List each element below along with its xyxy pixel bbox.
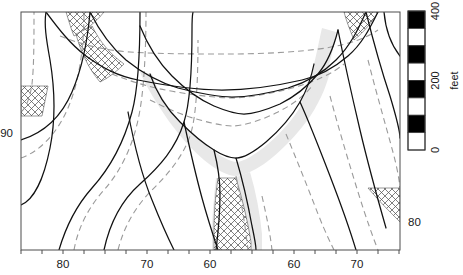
scale-bar-segment-0 <box>408 11 425 28</box>
x-tick-label-70-16: 70 <box>351 258 364 270</box>
scale-bar-segments <box>408 11 425 150</box>
x-tick-label-60-13: 60 <box>288 258 301 270</box>
y-left-label-90: 90 <box>0 127 13 139</box>
x-tick-label-80-2: 80 <box>57 258 70 270</box>
scale-bar: 4002000 feet <box>408 2 460 153</box>
scale-bar-segment-6 <box>408 115 425 132</box>
scale-bar-tick-labels: 4002000 <box>429 2 441 153</box>
y-right-label-80: 80 <box>408 216 421 228</box>
scale-bar-segment-3 <box>408 63 425 80</box>
y-axis-left-labels: 90 <box>0 127 13 139</box>
scale-bar-segment-1 <box>408 28 425 45</box>
x-tick-label-60-9: 60 <box>204 258 217 270</box>
x-axis-ticks <box>21 250 399 254</box>
figure-canvas: 8070606070 90 80 4002000 feet <box>0 0 463 275</box>
contour-map-svg: 8070606070 90 80 4002000 feet <box>0 0 463 275</box>
scale-bar-segment-2 <box>408 46 425 63</box>
scale-bar-title: feet <box>448 71 460 89</box>
scale-bar-segment-7 <box>408 133 425 150</box>
scale-bar-tick-200: 200 <box>429 71 441 89</box>
x-axis-tick-labels: 8070606070 <box>57 258 364 270</box>
scale-bar-segment-5 <box>408 98 425 115</box>
plot-area <box>21 12 400 250</box>
scale-bar-segment-4 <box>408 81 425 98</box>
scale-bar-tick-0: 0 <box>429 147 441 153</box>
y-axis-right-labels: 80 <box>408 216 421 228</box>
scale-bar-tick-400: 400 <box>429 2 441 20</box>
x-tick-label-70-6: 70 <box>141 258 154 270</box>
plot-background <box>21 12 400 250</box>
